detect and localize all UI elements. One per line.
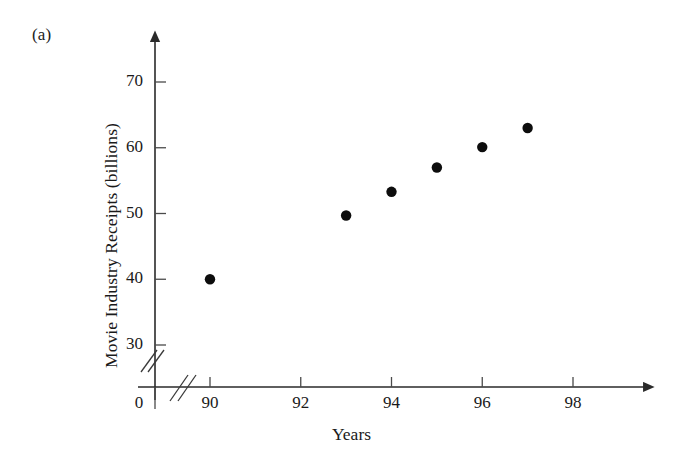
x-tick-label: 90 [188, 393, 232, 413]
x-tick-marks [210, 377, 573, 387]
y-tick-label: 60 [103, 137, 143, 157]
data-point-group [205, 123, 533, 285]
y-tick-marks [155, 82, 166, 345]
data-point [477, 142, 487, 152]
y-tick-label: 50 [103, 203, 143, 223]
x-tick-label: 98 [551, 393, 595, 413]
data-point [432, 162, 442, 172]
data-point [386, 187, 396, 197]
y-axis-break-icon [141, 350, 164, 372]
y-tick-label: 40 [103, 268, 143, 288]
chart-figure: (a) Movie Industry Receipts (billions) Y… [0, 0, 687, 468]
origin-label: 0 [117, 393, 161, 413]
x-tick-label: 92 [279, 393, 323, 413]
data-point [522, 123, 532, 133]
y-tick-label: 30 [103, 334, 143, 354]
y-tick-label: 70 [103, 71, 143, 91]
data-point [341, 210, 351, 220]
data-point [205, 274, 215, 284]
x-tick-label: 94 [370, 393, 414, 413]
x-tick-label: 96 [460, 393, 504, 413]
